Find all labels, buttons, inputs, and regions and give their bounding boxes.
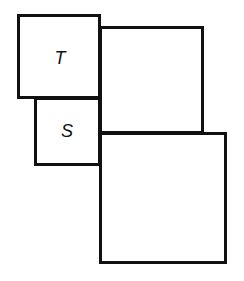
label-t: T [55, 49, 66, 67]
label-s: S [61, 122, 73, 140]
square-lower-right [99, 132, 227, 264]
square-upper-right [99, 26, 204, 134]
diagram-canvas: T S [0, 0, 244, 281]
